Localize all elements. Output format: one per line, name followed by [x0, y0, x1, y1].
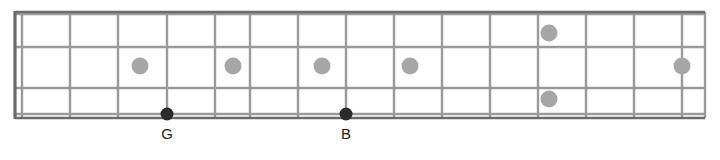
fretboard-diagram: GB — [0, 0, 720, 160]
fret-marker-dot-0 — [132, 58, 149, 75]
root-note-dot-1 — [340, 108, 353, 121]
fret-marker-dot-2 — [314, 58, 331, 75]
fret-marker-dot-1 — [225, 58, 242, 75]
root-note-dot-0 — [161, 108, 174, 121]
fret-marker-dot-5 — [541, 91, 558, 108]
note-label-b: B — [326, 126, 366, 142]
fret-marker-dot-4 — [541, 25, 558, 42]
note-label-g: G — [147, 126, 187, 142]
fret-marker-dot-3 — [402, 58, 419, 75]
fret-marker-dot-6 — [674, 58, 691, 75]
